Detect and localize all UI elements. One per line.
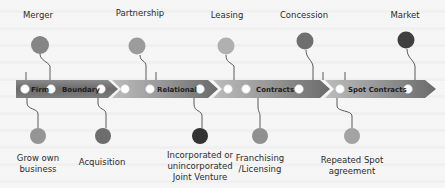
repeated-spot-agreement-dot	[344, 128, 360, 144]
joint-venture-dot	[192, 128, 208, 144]
grow-own-business-dot	[30, 128, 46, 144]
bottom-label-joint-venture: Incorporated or unincorporated Joint Ven…	[161, 150, 239, 183]
bottom-label-repeated-spot-agreement: Repeated Spot agreement	[316, 155, 388, 177]
top-label-merger: Merger	[23, 10, 53, 21]
top-label-leasing: Leasing	[211, 10, 244, 21]
merger-dot	[31, 36, 49, 54]
top-label-concession: Concession	[280, 10, 328, 21]
bottom-label-franchising-licensing: Franchising /Licensing	[234, 153, 286, 175]
concession-dot	[297, 33, 314, 50]
market-dot	[398, 32, 415, 49]
partnership-dot	[129, 38, 146, 55]
franchising-licensing-dot	[252, 128, 268, 144]
leasing-dot	[218, 38, 235, 55]
top-label-market: Market	[390, 10, 419, 21]
diagram-canvas: Firm Boundary Relational Contracts Spot …	[0, 0, 445, 188]
top-label-partnership: Partnership	[116, 8, 164, 19]
bottom-label-acquisition: Acquisition	[72, 157, 132, 168]
acquisition-dot	[95, 128, 111, 144]
bottom-label-grow-own-business: Grow own business	[10, 153, 66, 175]
